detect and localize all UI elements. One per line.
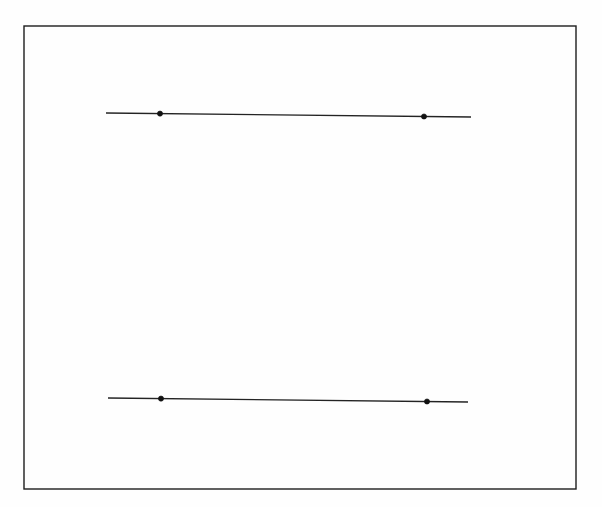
lower-right-marker <box>424 399 429 404</box>
series-group <box>106 111 471 404</box>
figure-canvas <box>0 0 602 507</box>
upper-right-marker <box>421 114 426 119</box>
plot-frame <box>24 26 576 489</box>
figure-page <box>0 0 602 507</box>
upper-left-marker <box>157 111 162 116</box>
lower-left-marker <box>158 396 163 401</box>
